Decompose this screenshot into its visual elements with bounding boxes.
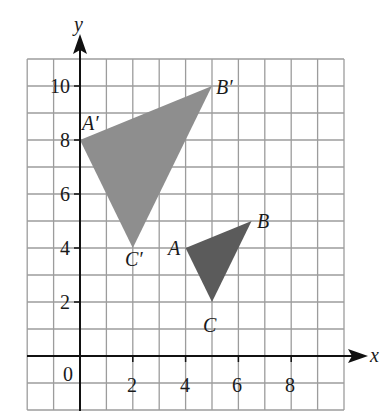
labels: x y 0 2 4 6 8 2 4 6 8 10 A B C A′ B′ C′	[50, 13, 379, 396]
x-axis-label: x	[369, 344, 379, 366]
y-tick-label-6: 6	[60, 183, 70, 205]
coordinate-plane: x y 0 2 4 6 8 2 4 6 8 10 A B C A′ B′ C′	[0, 0, 388, 413]
vertex-label-c-prime: C′	[125, 248, 143, 270]
y-tick-label-2: 2	[60, 291, 70, 313]
vertex-label-b-prime: B′	[216, 76, 233, 98]
origin-label: 0	[63, 363, 73, 385]
x-tick-label-2: 2	[127, 374, 137, 396]
triangle-abc	[186, 221, 252, 302]
y-tick-label-10: 10	[50, 75, 70, 97]
y-tick-label-4: 4	[60, 237, 70, 259]
axes	[27, 34, 368, 411]
x-tick-label-8: 8	[285, 374, 295, 396]
vertex-label-b: B	[257, 210, 269, 232]
x-tick-label-6: 6	[232, 374, 242, 396]
x-tick-label-4: 4	[180, 374, 190, 396]
vertex-label-a: A	[166, 237, 181, 259]
y-axis-label: y	[72, 13, 83, 36]
vertex-label-a-prime: A′	[80, 112, 99, 134]
y-tick-label-8: 8	[60, 129, 70, 151]
vertex-label-c: C	[203, 314, 217, 336]
